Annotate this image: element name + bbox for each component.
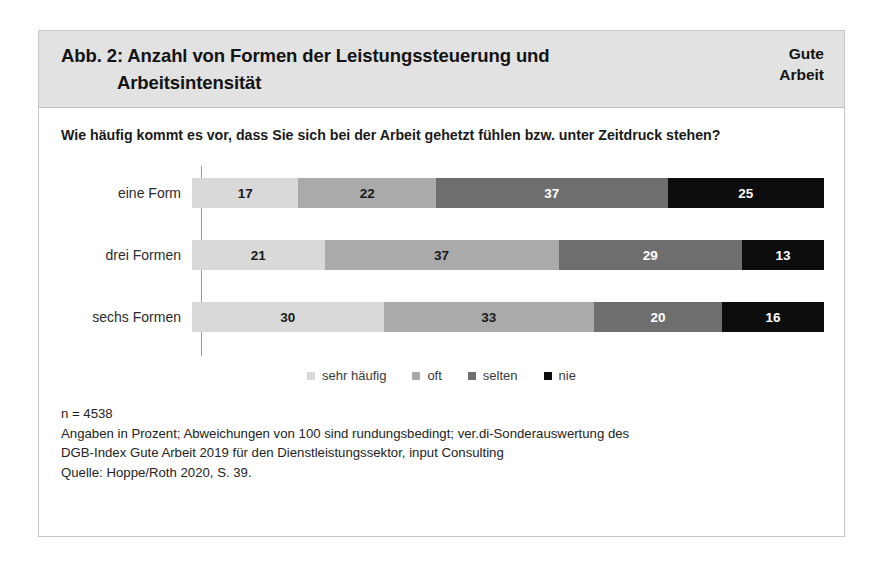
legend-swatch-icon	[468, 372, 476, 380]
legend-label: oft	[427, 368, 441, 383]
footnote-line: DGB-Index Gute Arbeit 2019 für den Diens…	[61, 443, 801, 463]
legend-swatch-icon	[544, 372, 552, 380]
bar-segment: 33	[384, 302, 595, 332]
legend-item: nie	[544, 368, 576, 383]
figure-header: Abb. 2: Anzahl von Formen der Leistungss…	[39, 31, 844, 108]
bar-segment: 22	[298, 178, 436, 208]
chart-question: Wie häufig kommt es vor, dass Sie sich b…	[61, 127, 720, 143]
bar-track: 17223725	[192, 178, 824, 208]
figure-container: Abb. 2: Anzahl von Formen der Leistungss…	[38, 30, 845, 537]
bar-segment: 37	[436, 178, 668, 208]
bar-segment: 17	[192, 178, 298, 208]
footnote-line: Angaben in Prozent; Abweichungen von 100…	[61, 424, 801, 444]
bar-row-label: eine Form	[61, 185, 191, 201]
legend-item: selten	[468, 368, 518, 383]
figure-title-line-2: Arbeitsintensität	[61, 69, 681, 96]
brand-label: Gute Arbeit	[779, 43, 824, 85]
legend-label: sehr häufig	[322, 368, 386, 383]
bar-segment: 20	[594, 302, 722, 332]
figure-title-line-1: Abb. 2: Anzahl von Formen der Leistungss…	[61, 42, 681, 69]
legend-item: sehr häufig	[307, 368, 386, 383]
bar-track: 30332016	[192, 302, 824, 332]
bar-track: 21372913	[192, 240, 824, 270]
bar-row-label: drei Formen	[61, 247, 191, 263]
figure-title: Abb. 2: Anzahl von Formen der Leistungss…	[61, 42, 681, 96]
legend-swatch-icon	[412, 372, 420, 380]
legend-swatch-icon	[307, 372, 315, 380]
bar-row: eine Form17223725	[61, 178, 825, 208]
legend-label: nie	[559, 368, 576, 383]
footnote-line: Quelle: Hoppe/Roth 2020, S. 39.	[61, 463, 801, 483]
bar-segment: 21	[192, 240, 325, 270]
bar-segment: 29	[559, 240, 742, 270]
figure-footnotes: n = 4538Angaben in Prozent; Abweichungen…	[61, 404, 801, 482]
bar-segment: 37	[325, 240, 559, 270]
legend-item: oft	[412, 368, 441, 383]
bar-row: drei Formen21372913	[61, 240, 825, 270]
bar-segment: 13	[742, 240, 824, 270]
bar-segment: 25	[668, 178, 824, 208]
bar-segment: 30	[192, 302, 384, 332]
stacked-bar-chart: eine Form17223725drei Formen21372913sech…	[61, 166, 825, 356]
legend-label: selten	[483, 368, 518, 383]
bar-row: sechs Formen30332016	[61, 302, 825, 332]
bar-segment: 16	[722, 302, 824, 332]
footnote-line: n = 4538	[61, 404, 801, 424]
brand-label-line-2: Arbeit	[779, 64, 824, 85]
chart-legend: sehr häufigoftseltennie	[39, 368, 844, 383]
figure-body: Wie häufig kommt es vor, dass Sie sich b…	[39, 108, 844, 536]
bar-row-label: sechs Formen	[61, 309, 191, 325]
brand-label-line-1: Gute	[779, 43, 824, 64]
